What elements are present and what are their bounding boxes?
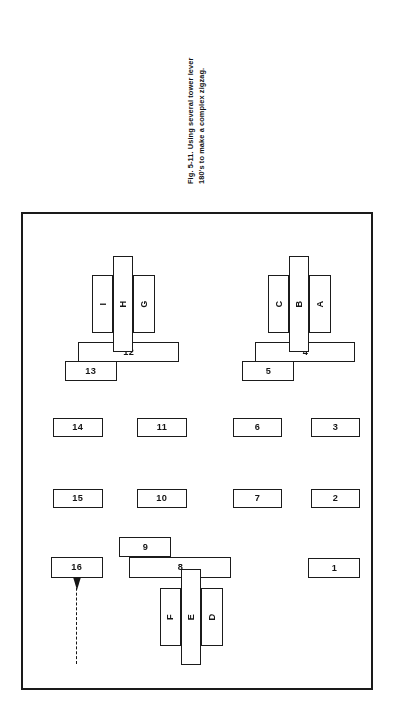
block-D: D xyxy=(201,588,223,646)
block-9-label: 9 xyxy=(142,542,147,552)
block-1: 1 xyxy=(308,558,360,578)
motion-arrow-dashed-line xyxy=(76,578,77,664)
block-13: 13 xyxy=(65,361,117,381)
figure-frame: 12345678910111213141516 ABCDEFGHI xyxy=(21,212,373,690)
block-11: 11 xyxy=(137,418,187,437)
block-H: H xyxy=(113,256,133,352)
block-3-label: 3 xyxy=(333,423,338,433)
figure-caption-line-2: 180's to make a complex zigzag. xyxy=(197,18,208,184)
block-A-label: A xyxy=(315,301,325,308)
block-6: 6 xyxy=(233,418,282,437)
block-D-label: D xyxy=(207,614,217,621)
block-2-label: 2 xyxy=(333,494,338,504)
motion-arrow xyxy=(71,578,83,664)
block-C-label: C xyxy=(274,301,284,308)
block-H-label: H xyxy=(118,301,128,308)
block-2: 2 xyxy=(311,489,360,508)
block-I-label: I xyxy=(98,303,108,306)
block-G: G xyxy=(133,275,155,333)
block-10: 10 xyxy=(137,489,187,508)
block-16: 16 xyxy=(51,557,103,578)
block-5: 5 xyxy=(242,361,294,381)
block-5-label: 5 xyxy=(265,366,270,376)
block-15: 15 xyxy=(53,489,103,508)
block-I: I xyxy=(92,275,113,333)
block-E: E xyxy=(181,569,201,665)
block-16-label: 16 xyxy=(72,563,83,573)
block-14: 14 xyxy=(53,418,103,437)
block-8: 8 xyxy=(129,557,231,578)
block-F-label: F xyxy=(166,614,176,620)
block-C: C xyxy=(268,275,289,333)
block-10-label: 10 xyxy=(157,494,168,504)
figure-canvas: 12345678910111213141516 ABCDEFGHI xyxy=(23,214,371,688)
block-A: A xyxy=(309,275,331,333)
block-7-label: 7 xyxy=(255,494,260,504)
block-9: 9 xyxy=(119,537,171,557)
block-13-label: 13 xyxy=(86,366,97,376)
block-F: F xyxy=(160,588,181,646)
block-E-label: E xyxy=(186,614,196,620)
block-1-label: 1 xyxy=(331,563,336,573)
block-6-label: 6 xyxy=(255,423,260,433)
block-B-label: B xyxy=(294,301,304,308)
figure-caption: Fig. 5-11. Using several tower lever 180… xyxy=(186,18,252,184)
figure-caption-line-1: Fig. 5-11. Using several tower lever xyxy=(186,18,197,184)
block-G-label: G xyxy=(139,300,149,307)
block-14-label: 14 xyxy=(73,423,84,433)
motion-arrow-head-icon xyxy=(73,577,81,590)
block-11-label: 11 xyxy=(157,423,167,433)
block-3: 3 xyxy=(311,418,360,437)
block-15-label: 15 xyxy=(73,494,84,504)
block-B: B xyxy=(289,256,309,352)
block-7: 7 xyxy=(233,489,282,508)
